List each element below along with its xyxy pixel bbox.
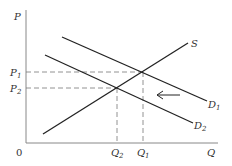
d2-label: D 2 [193, 120, 207, 133]
supply-demand-chart: P Q 0 S D 1 D 2 P 1 P 2 Q 2 Q 1 [0, 0, 232, 166]
svg-text:1: 1 [17, 72, 21, 80]
svg-text:D: D [193, 120, 202, 131]
demand-curve-d2 [45, 55, 193, 123]
q2-label: Q 2 [111, 147, 124, 160]
supply-curve [43, 43, 188, 134]
x-axis-label: Q [207, 147, 215, 158]
origin-label: 0 [16, 147, 22, 158]
svg-text:Q: Q [137, 147, 145, 158]
svg-text:P: P [9, 83, 17, 94]
svg-text:Q: Q [111, 147, 119, 158]
svg-text:1: 1 [216, 104, 220, 112]
svg-text:1: 1 [145, 152, 149, 160]
p1-label: P 1 [9, 67, 21, 80]
d1-label: D 1 [207, 99, 220, 112]
q1-label: Q 1 [137, 147, 149, 160]
svg-text:2: 2 [16, 88, 22, 96]
y-axis-label: P [13, 11, 21, 22]
svg-text:2: 2 [201, 125, 207, 133]
shift-arrow-icon [157, 91, 180, 99]
svg-text:D: D [207, 99, 216, 110]
svg-text:2: 2 [118, 152, 124, 160]
p2-label: P 2 [9, 83, 22, 96]
demand-curve-d1 [62, 37, 207, 101]
svg-text:P: P [9, 67, 17, 78]
supply-label: S [191, 38, 198, 49]
